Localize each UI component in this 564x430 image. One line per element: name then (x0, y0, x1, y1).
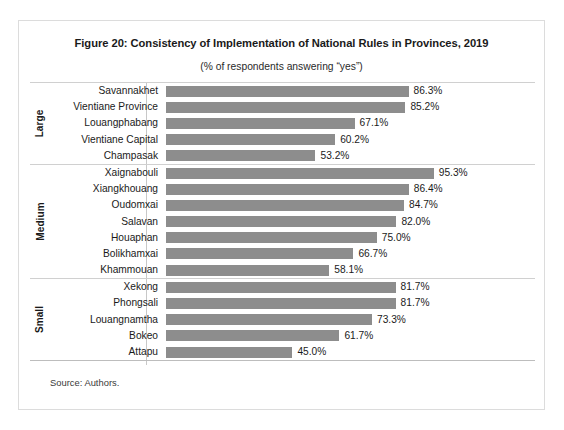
bar-row: Attapu45.0% (50, 344, 535, 360)
bar-track: 60.2% (166, 132, 535, 148)
bar-value-label: 86.4% (409, 181, 443, 197)
bar-value-label: 84.7% (404, 197, 438, 213)
group-label-large: Large (30, 83, 50, 164)
bar-track: 67.1% (166, 115, 535, 131)
category-label: Xekong (50, 279, 162, 295)
bar-group-rows: Xekong81.7%Phongsali81.7%Louangnamtha73.… (50, 279, 535, 360)
bar-value-label: 53.2% (315, 148, 349, 164)
bar (166, 330, 339, 341)
category-label: Phongsali (50, 295, 162, 311)
category-label: Xiangkhouang (50, 181, 162, 197)
bar-row: Louangphabang67.1% (50, 115, 535, 131)
bar-value-label: 81.7% (396, 295, 430, 311)
bar-value-label: 45.0% (292, 344, 326, 360)
category-label: Salavan (50, 214, 162, 230)
bar (166, 248, 353, 259)
bar (166, 168, 434, 179)
bar-value-label: 81.7% (396, 279, 430, 295)
bar-group: MediumXaignabouli95.3%Xiangkhouang86.4%O… (30, 164, 535, 278)
bar-group-rows: Savannakhet86.3%Vientiane Province85.2%L… (50, 83, 535, 164)
bar (166, 298, 396, 309)
source-note: Source: Authors. (50, 377, 119, 388)
bar-row: Vientiane Capital60.2% (50, 132, 535, 148)
bar-row: Bokeo61.7% (50, 328, 535, 344)
bar-value-label: 86.3% (409, 83, 443, 99)
bar-group-rows: Xaignabouli95.3%Xiangkhouang86.4%Oudomxa… (50, 165, 535, 278)
bar-value-label: 75.0% (377, 230, 411, 246)
bar-row: Salavan82.0% (50, 214, 535, 230)
bar (166, 314, 372, 325)
group-label-text: Large (35, 110, 46, 138)
bar-value-label: 95.3% (434, 165, 468, 181)
category-label: Louangnamtha (50, 312, 162, 328)
category-label: Khammouan (50, 262, 162, 278)
bar-track: 85.2% (166, 99, 535, 115)
bar (166, 184, 409, 195)
group-label-medium: Medium (30, 165, 50, 278)
bar-track: 45.0% (166, 344, 535, 360)
bar-chart-plot-area: LargeSavannakhet86.3%Vientiane Province8… (30, 82, 535, 365)
bar-row: Xiangkhouang86.4% (50, 181, 535, 197)
bar-track: 66.7% (166, 246, 535, 262)
figure-subtitle: (% of respondents answering “yes”) (19, 61, 544, 72)
figure-container: Figure 20: Consistency of Implementation… (18, 20, 545, 410)
bar-track: 95.3% (166, 165, 535, 181)
bar (166, 282, 396, 293)
bar-track: 53.2% (166, 148, 535, 164)
bar-value-label: 73.3% (372, 312, 406, 328)
bar-value-label: 82.0% (396, 214, 430, 230)
bar (166, 200, 404, 211)
bar (166, 118, 355, 129)
category-label: Xaignabouli (50, 165, 162, 181)
bar (166, 347, 292, 358)
category-label: Attapu (50, 344, 162, 360)
group-label-text: Small (35, 306, 46, 333)
bar-row: Champasak53.2% (50, 148, 535, 164)
bar (166, 265, 329, 276)
bar-track: 81.7% (166, 279, 535, 295)
category-label: Louangphabang (50, 115, 162, 131)
bar-track: 75.0% (166, 230, 535, 246)
bar-value-label: 85.2% (405, 99, 439, 115)
bar-track: 82.0% (166, 214, 535, 230)
bar-track: 73.3% (166, 312, 535, 328)
category-label: Vientiane Capital (50, 132, 162, 148)
bar-row: Khammouan58.1% (50, 262, 535, 278)
bar-track: 86.3% (166, 83, 535, 99)
bar-value-label: 61.7% (339, 328, 373, 344)
bar (166, 150, 315, 161)
bar-row: Vientiane Province85.2% (50, 99, 535, 115)
bar-group: SmallXekong81.7%Phongsali81.7%Louangnamt… (30, 278, 535, 361)
bar-row: Houaphan75.0% (50, 230, 535, 246)
bar-track: 58.1% (166, 262, 535, 278)
bar (166, 102, 405, 113)
category-label: Bokeo (50, 328, 162, 344)
category-label: Houaphan (50, 230, 162, 246)
bar-row: Phongsali81.7% (50, 295, 535, 311)
bar-group: LargeSavannakhet86.3%Vientiane Province8… (30, 82, 535, 164)
bar-track: 61.7% (166, 328, 535, 344)
bar (166, 134, 335, 145)
bar (166, 232, 377, 243)
bar-row: Xaignabouli95.3% (50, 165, 535, 181)
bar-row: Louangnamtha73.3% (50, 312, 535, 328)
category-label: Champasak (50, 148, 162, 164)
bar-row: Savannakhet86.3% (50, 83, 535, 99)
bar-track: 86.4% (166, 181, 535, 197)
group-label-text: Medium (35, 202, 46, 240)
group-label-small: Small (30, 279, 50, 360)
category-label: Oudomxai (50, 197, 162, 213)
bar-row: Oudomxai84.7% (50, 197, 535, 213)
bar (166, 86, 409, 97)
bar (166, 216, 396, 227)
bar-row: Xekong81.7% (50, 279, 535, 295)
bar-value-label: 66.7% (353, 246, 387, 262)
bar-track: 84.7% (166, 197, 535, 213)
category-label: Savannakhet (50, 83, 162, 99)
figure-title: Figure 20: Consistency of Implementation… (19, 37, 544, 49)
bar-value-label: 67.1% (355, 115, 389, 131)
bar-value-label: 58.1% (329, 262, 363, 278)
category-label: Bolikhamxai (50, 246, 162, 262)
bar-row: Bolikhamxai66.7% (50, 246, 535, 262)
bar-value-label: 60.2% (335, 132, 369, 148)
